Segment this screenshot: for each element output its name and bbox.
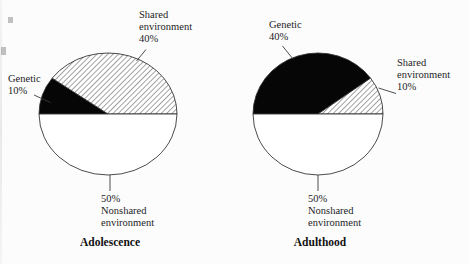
callout-genetic-adolescence: Genetic 10% — [8, 73, 41, 97]
pie-adolescence-slice-nonshared-environment — [39, 114, 177, 175]
label-line: environment — [308, 217, 361, 229]
pie-adulthood-slice-nonshared-environment — [253, 114, 383, 175]
leader-shared-adulthood — [379, 88, 397, 94]
callout-nonshared-adulthood: 50% Nonshared environment — [308, 193, 361, 229]
pie-charts-canvas — [0, 0, 469, 264]
leader-shared-adolescence — [137, 50, 147, 62]
label-line: 10% — [8, 85, 41, 97]
label-line: environment — [397, 69, 450, 81]
label-line: 50% — [308, 193, 361, 205]
label-line: 40% — [139, 33, 192, 45]
label-line: environment — [101, 217, 154, 229]
label-line: 50% — [101, 193, 154, 205]
label-line: Shared — [397, 57, 450, 69]
callout-genetic-adulthood: Genetic 40% — [269, 19, 302, 43]
label-line: Nonshared — [308, 205, 361, 217]
chart-title-adolescence: Adolescence — [80, 236, 140, 248]
pie-group — [39, 53, 383, 175]
leader-genetic-adulthood — [283, 46, 294, 59]
chart-title-adulthood: Adulthood — [294, 236, 346, 248]
dual-pie-chart-figure: Shared environment 40% Genetic 10% 50% N… — [0, 0, 469, 264]
label-line: 10% — [397, 81, 450, 93]
label-line: Nonshared — [101, 205, 154, 217]
label-line: Genetic — [269, 19, 302, 31]
callout-nonshared-adolescence: 50% Nonshared environment — [101, 193, 154, 229]
label-line: Shared — [139, 9, 192, 21]
callout-shared-environment-adolescence: Shared environment 40% — [139, 9, 192, 45]
label-line: 40% — [269, 31, 302, 43]
label-line: Genetic — [8, 73, 41, 85]
label-line: environment — [139, 21, 192, 33]
callout-shared-environment-adulthood: Shared environment 10% — [397, 57, 450, 93]
